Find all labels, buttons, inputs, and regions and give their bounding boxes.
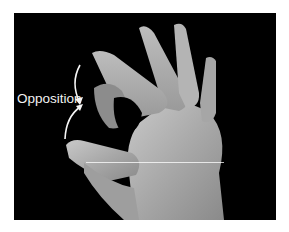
hand-illustration	[14, 13, 276, 220]
divider-line	[86, 162, 224, 163]
opposition-label: Opposition	[17, 91, 82, 106]
hand-photo: Opposition	[14, 13, 276, 220]
up-arrow-icon	[65, 107, 80, 139]
